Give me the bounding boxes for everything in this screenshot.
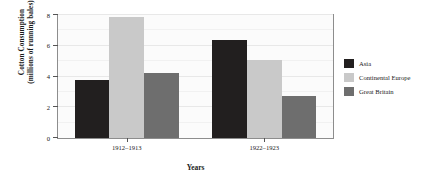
legend-label-continental-europe: Continental Europe [359,74,410,81]
legend-swatch-continental-europe [344,73,354,82]
bar-chart-figure: Cotton Consumption (millions of running … [0,0,427,181]
y-tick-label-8: 8 [47,11,50,18]
legend-item-asia: Asia [344,59,410,68]
y-tick-label-0: 0 [47,134,50,141]
x-tick-1 [264,138,265,142]
y-axis-title-line-2: (millions of running bales) [27,0,36,84]
bar-great-britain-1912-1913 [144,73,179,138]
legend-label-great-britain: Great Britain [359,88,394,95]
y-tick-label-6: 6 [47,42,50,49]
x-tick-label-0: 1912–1913 [112,144,142,151]
y-tick-label-2: 2 [47,103,50,110]
x-tick-0 [127,138,128,142]
legend-swatch-great-britain [344,87,354,96]
plot-area: 0 2 4 6 8 1912–1913 1922–1923 [57,14,334,139]
legend-item-great-britain: Great Britain [344,87,410,96]
bar-great-britain-1922-1923 [282,96,317,138]
y-tick-label-4: 4 [47,73,50,80]
y-axis-title-line-1: Cotton Consumption [18,9,27,75]
bars-layer [58,15,333,138]
x-axis-title: Years [57,163,334,172]
legend-swatch-asia [344,59,354,68]
chart-legend: Asia Continental Europe Great Britain [344,59,410,96]
bar-continental-europe-1922-1923 [247,60,282,138]
y-axis-title: Cotton Consumption (millions of running … [12,0,42,117]
bar-continental-europe-1912-1913 [109,17,144,138]
legend-label-asia: Asia [359,60,371,67]
bar-asia-1922-1923 [212,40,247,138]
x-tick-label-1: 1922–1923 [249,144,279,151]
bar-asia-1912-1913 [75,80,110,138]
legend-item-continental-europe: Continental Europe [344,73,410,82]
